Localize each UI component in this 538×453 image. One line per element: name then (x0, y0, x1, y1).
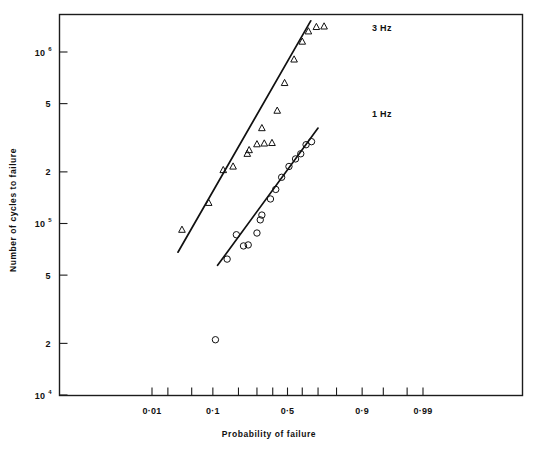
data-point (246, 146, 253, 152)
data-point (291, 56, 298, 62)
y-axis-ticks (60, 52, 68, 395)
data-point (254, 230, 260, 236)
data-point (269, 139, 276, 145)
x-tick-label: 0·1 (206, 406, 220, 416)
svg-text:10: 10 (35, 48, 45, 58)
svg-text:5: 5 (45, 99, 50, 109)
data-point (261, 140, 268, 146)
svg-text:2: 2 (45, 339, 50, 349)
y-tick-label: 104 (35, 389, 53, 401)
data-point (212, 337, 218, 343)
fit-line-3hz (178, 21, 311, 252)
data-point (321, 23, 328, 29)
data-point (308, 138, 314, 144)
data-point (230, 163, 237, 169)
x-axis-tick-labels: 0·010·10·50·90·99 (143, 406, 433, 416)
y-tick-label: 2 (45, 339, 50, 349)
series-label-1hz: 1 Hz (372, 109, 392, 119)
data-point (233, 232, 239, 238)
data-point (244, 150, 251, 156)
svg-text:10: 10 (35, 219, 45, 229)
data-markers-3hz (179, 23, 328, 232)
data-point (245, 242, 251, 248)
plot-frame (60, 15, 523, 396)
x-axis-title: Probability of failure (222, 429, 316, 439)
svg-text:5: 5 (45, 271, 50, 281)
y-tick-label: 5 (45, 99, 50, 109)
x-tick-label: 0·5 (281, 406, 295, 416)
svg-text:4: 4 (48, 389, 52, 395)
probability-of-failure-plot: 1065210552104 0·010·10·50·90·99 3 Hz 1 H… (0, 0, 538, 453)
svg-text:10: 10 (35, 391, 45, 401)
y-axis-tick-labels: 1065210552104 (35, 46, 53, 401)
data-point (274, 107, 281, 113)
x-tick-label: 0·99 (414, 406, 433, 416)
x-axis-ticks (152, 388, 423, 396)
chart-figure: 1065210552104 0·010·10·50·90·99 3 Hz 1 H… (0, 0, 538, 453)
data-point (267, 196, 273, 202)
x-tick-label: 0·9 (355, 406, 369, 416)
y-tick-label: 5 (45, 271, 50, 281)
x-tick-label: 0·01 (143, 406, 162, 416)
svg-text:5: 5 (48, 217, 52, 223)
data-point (224, 256, 230, 262)
svg-text:2: 2 (45, 167, 50, 177)
fit-lines (178, 21, 318, 266)
y-axis-title: Number of cycles to failure (8, 148, 18, 272)
y-tick-label: 2 (45, 167, 50, 177)
data-point (313, 23, 320, 29)
series-label-3hz: 3 Hz (372, 23, 392, 33)
data-markers-1hz (212, 138, 314, 342)
y-tick-label: 106 (35, 46, 53, 58)
data-point (179, 226, 186, 232)
y-tick-label: 105 (35, 217, 53, 229)
svg-text:6: 6 (48, 46, 52, 52)
data-point (254, 141, 261, 147)
data-point (259, 124, 266, 130)
data-point (281, 79, 288, 85)
